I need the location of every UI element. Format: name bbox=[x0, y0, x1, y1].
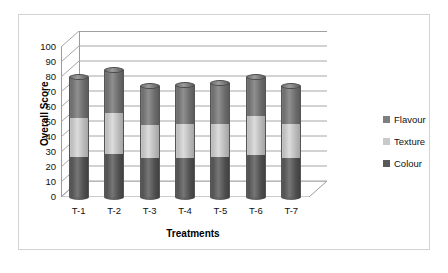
bar-outline bbox=[175, 85, 195, 198]
bar-top-cap bbox=[246, 74, 266, 80]
x-axis-tick-label: T-1 bbox=[62, 205, 96, 216]
y-axis-tick-label: 70 bbox=[18, 87, 56, 97]
bar-outline bbox=[281, 86, 301, 197]
y-axis-tick-label: 0 bbox=[18, 192, 56, 202]
legend-item: Colour bbox=[383, 152, 426, 174]
x-axis-tick-label: T-6 bbox=[239, 205, 273, 216]
bar-outline bbox=[140, 86, 160, 197]
bar-T-6 bbox=[246, 31, 266, 197]
bar-outline bbox=[210, 83, 230, 197]
bar-T-4 bbox=[175, 31, 195, 197]
bar-T-1 bbox=[69, 31, 89, 197]
y-axis-tick-label: 50 bbox=[18, 117, 56, 127]
y-axis-tick-label: 90 bbox=[18, 57, 56, 67]
legend-label: Texture bbox=[394, 136, 425, 147]
legend-label: Flavour bbox=[394, 114, 426, 125]
y-axis-tick-label: 30 bbox=[18, 147, 56, 157]
bar-T-7 bbox=[281, 31, 301, 197]
bar-top-cap bbox=[175, 82, 195, 88]
x-axis-tick-label: T-3 bbox=[133, 205, 167, 216]
y-axis-tick-label: 100 bbox=[18, 42, 56, 52]
y-axis-tick-label: 80 bbox=[18, 72, 56, 82]
y-axis-tick-label: 40 bbox=[18, 132, 56, 142]
x-axis-title: Treatments bbox=[128, 228, 258, 239]
legend-item: Texture bbox=[383, 130, 426, 152]
bar-T-2 bbox=[104, 31, 124, 197]
y-axis-tick-label: 60 bbox=[18, 102, 56, 112]
y-axis-tick-label: 10 bbox=[18, 177, 56, 187]
bars-layer bbox=[61, 31, 327, 197]
bar-T-5 bbox=[210, 31, 230, 197]
x-axis-tick-label: T-5 bbox=[203, 205, 237, 216]
x-axis-tick-label: T-4 bbox=[168, 205, 202, 216]
x-axis-tick-label: T-7 bbox=[274, 205, 308, 216]
bar-T-3 bbox=[140, 31, 160, 197]
bar-outline bbox=[246, 77, 266, 197]
legend-item: Flavour bbox=[383, 108, 426, 130]
chart-legend: FlavourTextureColour bbox=[383, 108, 426, 174]
chart-container: Overall Score 0102030405060708090100 T-1… bbox=[0, 0, 448, 273]
bar-outline bbox=[69, 77, 89, 197]
legend-swatch-icon bbox=[383, 116, 390, 123]
bar-top-cap bbox=[140, 83, 160, 89]
y-axis-tick-label: 20 bbox=[18, 162, 56, 172]
legend-swatch-icon bbox=[383, 160, 390, 167]
plot-area bbox=[61, 31, 327, 197]
x-axis-tick-label: T-2 bbox=[97, 205, 131, 216]
bar-outline bbox=[104, 70, 124, 198]
legend-swatch-icon bbox=[383, 138, 390, 145]
bar-top-cap bbox=[69, 74, 89, 80]
bar-top-cap bbox=[104, 67, 124, 73]
legend-label: Colour bbox=[394, 158, 422, 169]
